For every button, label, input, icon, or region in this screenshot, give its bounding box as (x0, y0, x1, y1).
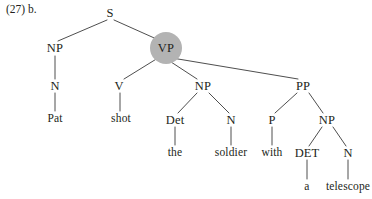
tree-terminal-w_with: with (261, 147, 282, 159)
tree-terminal-w_telescope: telescope (326, 181, 370, 193)
tree-edge-VP-to-V (124, 58, 158, 79)
syntax-tree-figure: (27) b. SNPVPNVNPPPDetNPNPPatshotthesold… (0, 0, 372, 199)
tree-node-np2: NP (195, 80, 211, 93)
tree-terminal-w_soldier: soldier (215, 147, 247, 159)
tree-node-n1: N (50, 80, 59, 93)
tree-node-det2: DET (295, 147, 320, 160)
tree-terminal-w_shot: shot (111, 113, 131, 125)
tree-node-np1: NP (47, 42, 63, 55)
tree-terminal-w_pat: Pat (47, 113, 62, 125)
tree-node-det: Det (166, 114, 185, 127)
tree-node-n2: N (226, 114, 235, 127)
tree-edge-PP-to-NP3 (309, 93, 323, 113)
tree-terminal-w_a: a (304, 181, 309, 193)
tree-edge-NP2-to-N2 (209, 93, 229, 113)
tree-edge-VP-to-NP2 (168, 60, 197, 79)
tree-branch-layer (0, 0, 372, 199)
tree-edge-VP-to-PP (172, 58, 298, 79)
tree-node-v: V (114, 80, 123, 93)
tree-edge-NP2-to-Det (178, 93, 197, 113)
tree-node-n3: N (343, 147, 352, 160)
tree-node-s: S (106, 7, 113, 20)
tree-node-p: P (268, 114, 275, 127)
tree-terminal-w_the: the (168, 147, 183, 159)
tree-node-pp: PP (296, 80, 310, 93)
tree-node-np3: NP (319, 114, 335, 127)
tree-edge-S-to-NP1 (58, 20, 107, 41)
tree-edge-NP3-to-DET2 (309, 127, 322, 146)
tree-edge-NP3-to-N3 (333, 127, 346, 146)
tree-node-vp: VP (158, 42, 174, 55)
tree-edge-PP-to-P (275, 93, 297, 113)
